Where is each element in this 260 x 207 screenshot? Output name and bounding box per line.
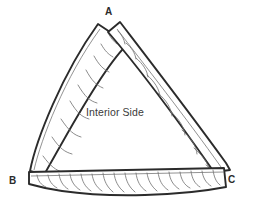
vertex-label-a: A [105,7,112,17]
left-strip [30,24,128,175]
diagram-canvas: A B C Interior Side [0,0,260,207]
bottom-strip [29,168,226,195]
right-strip [108,22,230,175]
triangular-frame-illustration [0,0,260,207]
vertex-label-b: B [9,176,16,186]
left-strip-outline [30,24,128,175]
vertex-label-c: C [228,175,235,185]
interior-side-label: Interior Side [86,106,144,118]
